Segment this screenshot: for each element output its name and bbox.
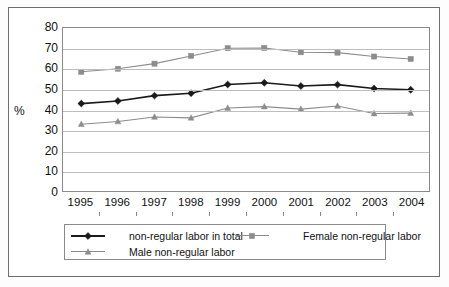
x-tick-mark: [246, 212, 247, 216]
legend-item[interactable]: non-regular labor in total: [71, 228, 243, 244]
y-tick-label: 50: [32, 83, 58, 95]
legend-marker: [247, 231, 257, 241]
legend-diamond-icon: [71, 230, 105, 242]
series-triangle: [78, 103, 413, 127]
chart-legend: non-regular labor in totalFemale non-reg…: [64, 224, 386, 260]
y-tick-label: 30: [32, 124, 58, 136]
x-tick-mark: [393, 212, 394, 216]
plot-area: [62, 27, 430, 192]
x-tick-mark: [356, 212, 357, 216]
y-tick-label: 0: [32, 186, 58, 198]
y-tick-label: 60: [32, 62, 58, 74]
x-tick-mark: [283, 212, 284, 216]
x-tick-mark: [136, 212, 137, 216]
y-tick-label: 40: [32, 104, 58, 116]
gridline: [63, 152, 429, 153]
data-point-marker: [114, 97, 121, 104]
legend-label: Male non-regular labor: [129, 246, 235, 258]
data-point-marker: [152, 61, 157, 66]
y-axis-tick-labels: 80706050403020100: [30, 27, 58, 192]
data-point-marker: [335, 50, 340, 55]
x-tick-mark: [99, 212, 100, 216]
data-point-marker: [298, 50, 303, 55]
x-tick-mark: [172, 212, 173, 216]
y-tick-label: 10: [32, 165, 58, 177]
gridline: [63, 131, 429, 132]
gridline: [63, 49, 429, 50]
data-point-marker: [78, 100, 85, 107]
data-point-marker: [79, 69, 84, 74]
series-diamond: [78, 79, 414, 107]
y-tick-label: 20: [32, 145, 58, 157]
legend-label: non-regular labor in total: [129, 230, 243, 242]
y-tick-label: 80: [32, 21, 58, 33]
legend-marker: [83, 231, 93, 241]
legend-label: Female non-regular labor: [303, 230, 421, 242]
legend-square-icon: [235, 230, 269, 242]
data-point-marker: [297, 83, 304, 90]
data-point-marker: [335, 103, 341, 109]
data-point-marker: [85, 249, 91, 255]
x-axis-tick-labels: 1995199619971998199920002001200220032004: [62, 196, 430, 212]
data-point-marker: [408, 56, 413, 61]
gridline: [63, 90, 429, 91]
y-axis-title: %: [14, 104, 25, 118]
legend-triangle-icon: [71, 246, 105, 258]
series-line: [81, 106, 410, 124]
legend-marker: [83, 247, 93, 257]
series-line: [81, 83, 410, 104]
figure-canvas: % 80706050403020100 19951996199719981999…: [0, 0, 449, 287]
data-point-marker: [261, 79, 268, 86]
gridline: [63, 69, 429, 70]
chart-series-svg: [63, 28, 429, 191]
y-tick-label: 70: [32, 42, 58, 54]
legend-item[interactable]: Female non-regular labor: [235, 228, 421, 244]
data-point-marker: [334, 81, 341, 88]
data-point-marker: [84, 232, 91, 239]
legend-item[interactable]: Male non-regular labor: [71, 244, 235, 260]
gridline: [63, 111, 429, 112]
data-point-marker: [249, 233, 254, 238]
data-point-marker: [224, 81, 231, 88]
data-point-marker: [151, 92, 158, 99]
gridline: [63, 172, 429, 173]
x-tick-mark: [320, 212, 321, 216]
data-point-marker: [189, 53, 194, 58]
data-point-marker: [372, 54, 377, 59]
x-tick-mark: [209, 212, 210, 216]
x-tick-label: 2004: [389, 196, 435, 208]
